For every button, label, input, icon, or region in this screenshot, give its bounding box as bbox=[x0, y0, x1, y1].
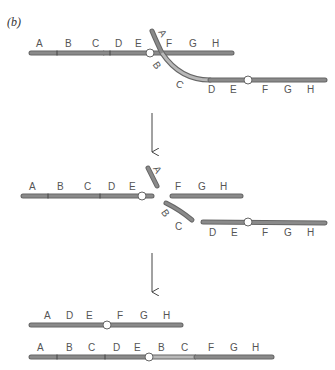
gene-label: D bbox=[115, 38, 122, 49]
stage1: A B C D E F G H A B C D E F G H bbox=[31, 27, 325, 95]
gene-label: G bbox=[140, 310, 148, 321]
centromere-icon bbox=[244, 218, 252, 226]
stage3-deletion-product bbox=[31, 321, 181, 329]
gene-label: B bbox=[151, 59, 164, 71]
centromere-icon bbox=[244, 76, 252, 84]
stage2-left-fragment bbox=[23, 192, 152, 200]
stage2-bottom-fragment bbox=[203, 218, 325, 226]
panel-label: (b) bbox=[7, 15, 21, 29]
gene-label: D bbox=[66, 310, 73, 321]
centromere-icon bbox=[146, 49, 154, 57]
gene-label: H bbox=[163, 310, 170, 321]
gene-label: C bbox=[92, 38, 99, 49]
gene-label: F bbox=[208, 342, 214, 353]
gene-label: A bbox=[44, 310, 51, 321]
centromere-icon bbox=[145, 353, 153, 361]
gene-label: B bbox=[66, 342, 73, 353]
gene-label: G bbox=[284, 84, 292, 95]
gene-label: H bbox=[252, 342, 259, 353]
gene-label: G bbox=[198, 181, 206, 192]
gene-label: D bbox=[113, 342, 120, 353]
gene-label: G bbox=[230, 342, 238, 353]
gene-label: H bbox=[212, 38, 219, 49]
gene-label: E bbox=[231, 227, 238, 238]
gene-label: D bbox=[208, 84, 215, 95]
gene-label: G bbox=[189, 38, 197, 49]
gene-label: C bbox=[175, 221, 182, 232]
stage3-duplication-product bbox=[31, 353, 272, 361]
gene-label: A bbox=[36, 38, 43, 49]
gene-label: F bbox=[166, 38, 172, 49]
recombination-diagram: (b) A B C D E bbox=[0, 0, 335, 370]
gene-label: A bbox=[29, 181, 36, 192]
gene-label: C bbox=[84, 181, 91, 192]
gene-label: B bbox=[159, 207, 172, 219]
gene-label: E bbox=[129, 181, 136, 192]
gene-label: D bbox=[108, 181, 115, 192]
gene-label: H bbox=[307, 227, 314, 238]
gene-label: H bbox=[307, 84, 314, 95]
gene-label: C bbox=[88, 342, 95, 353]
gene-label: B bbox=[158, 342, 165, 353]
gene-label: B bbox=[65, 38, 72, 49]
gene-label: B bbox=[57, 181, 64, 192]
gene-label: H bbox=[220, 181, 227, 192]
gene-label: F bbox=[175, 181, 181, 192]
gene-label: D bbox=[209, 227, 216, 238]
gene-label: C bbox=[181, 342, 188, 353]
gene-label: E bbox=[230, 84, 237, 95]
gene-label: G bbox=[284, 227, 292, 238]
gene-label: C bbox=[174, 78, 185, 91]
stage3: A D E F G H A B C D E B C F G H bbox=[31, 310, 272, 361]
stage2: A B C D E A F G H B C D E F G H bbox=[23, 164, 325, 238]
centromere-icon bbox=[103, 321, 111, 329]
gene-label: A bbox=[37, 342, 44, 353]
gene-label: E bbox=[134, 342, 141, 353]
centromere-icon bbox=[138, 192, 146, 200]
gene-label: F bbox=[117, 310, 123, 321]
gene-label: E bbox=[86, 310, 93, 321]
gene-label: F bbox=[262, 227, 268, 238]
stage1-bottom-chromosome bbox=[210, 76, 325, 84]
gene-label: F bbox=[262, 84, 268, 95]
stage1-top-chromosome bbox=[31, 49, 232, 57]
gene-label: E bbox=[135, 38, 142, 49]
